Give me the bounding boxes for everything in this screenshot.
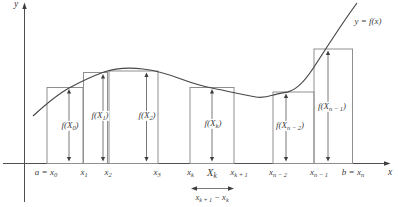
height-label-f-x0: f(X0) — [60, 121, 79, 131]
tick-label-a-x0: a = x0 — [35, 168, 57, 178]
interval-width-label: xk + 1 − xk — [195, 193, 228, 203]
tick-label-x3: x3 — [153, 168, 160, 178]
width-arrow — [191, 186, 234, 190]
tick-label-b-xn: b = xn — [342, 168, 364, 178]
tick-label-x1: x1 — [80, 168, 87, 178]
function-curve — [33, 3, 357, 116]
riemann-sum-figure: y x y = f(x) f(X0) f(X1) f(X2) f(Xk) f(X… — [0, 0, 398, 207]
height-label-f-xn1: f(Xn − 1) — [317, 102, 347, 112]
tick-label-xn2: xn − 2 — [269, 168, 287, 178]
x-axis-arrowhead-icon — [384, 161, 391, 165]
height-label-f-xk: f(Xk) — [204, 119, 223, 129]
height-label-f-xn2: f(Xn − 2) — [275, 121, 305, 131]
tick-label-xn1: xn − 1 — [310, 168, 328, 178]
tick-label-xk1: xk + 1 — [230, 168, 248, 178]
tick-label-xk: xk — [187, 168, 194, 178]
height-label-f-x2: f(X2) — [137, 111, 156, 121]
height-label-f-x1: f(X1) — [90, 111, 109, 121]
tick-label-Xk-sample: Xk — [207, 168, 217, 180]
tick-label-x2: x2 — [104, 168, 111, 178]
y-axis-arrowhead-icon — [22, 3, 26, 10]
curve-label: y = f(x) — [354, 17, 381, 26]
y-axis-label: y — [14, 0, 18, 10]
x-axis-label: x — [388, 168, 392, 178]
